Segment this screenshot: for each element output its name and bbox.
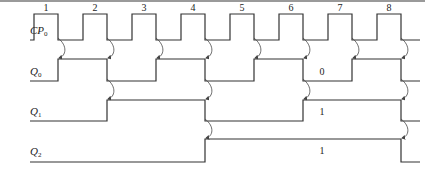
trigger-arrows xyxy=(58,38,408,138)
signal-label-q1: Q1 xyxy=(30,105,42,119)
trigger-arrow-icon xyxy=(401,119,408,138)
state-value-label: 1 xyxy=(320,106,325,117)
pulse-numbers: 12345678 xyxy=(44,2,392,13)
signal-labels: CP0Q0Q1Q2 xyxy=(30,24,48,159)
trigger-arrow-icon xyxy=(254,38,261,58)
pulse-number: 2 xyxy=(93,2,98,13)
trigger-arrow-icon xyxy=(205,119,212,138)
waveform-q1 xyxy=(30,100,420,121)
trigger-arrow-icon xyxy=(107,38,114,58)
pulse-number: 3 xyxy=(142,2,147,13)
pulse-number: 5 xyxy=(240,2,245,13)
state-labels: 011 xyxy=(320,66,325,156)
trigger-arrow-icon xyxy=(303,38,310,58)
waveform-q2 xyxy=(30,139,420,162)
trigger-arrow-icon xyxy=(205,79,212,99)
pulse-number: 4 xyxy=(191,2,196,13)
trigger-arrow-icon xyxy=(352,38,359,58)
trigger-arrow-icon xyxy=(401,79,408,99)
pulse-number: 1 xyxy=(44,2,49,13)
pulse-number: 7 xyxy=(338,2,343,13)
trigger-arrow-icon xyxy=(58,38,65,58)
timing-diagram: CP0Q0Q1Q2 12345678 011 xyxy=(0,0,425,172)
trigger-arrow-icon xyxy=(205,38,212,58)
pulse-number: 8 xyxy=(387,2,392,13)
trigger-arrow-icon xyxy=(401,38,408,58)
signal-label-cp0: CP0 xyxy=(30,24,48,38)
signal-label-q0: Q0 xyxy=(30,65,42,79)
state-value-label: 1 xyxy=(320,145,325,156)
waveform-q0 xyxy=(30,59,420,81)
trigger-arrow-icon xyxy=(303,79,310,99)
state-value-label: 0 xyxy=(320,66,325,77)
signal-label-q2: Q2 xyxy=(30,145,42,159)
trigger-arrow-icon xyxy=(107,79,114,99)
trigger-arrow-icon xyxy=(156,38,163,58)
waveform-canvas: CP0Q0Q1Q2 12345678 011 xyxy=(0,0,425,172)
pulse-number: 6 xyxy=(289,2,294,13)
waveform-traces xyxy=(30,14,420,162)
waveform-cp0 xyxy=(30,14,420,40)
